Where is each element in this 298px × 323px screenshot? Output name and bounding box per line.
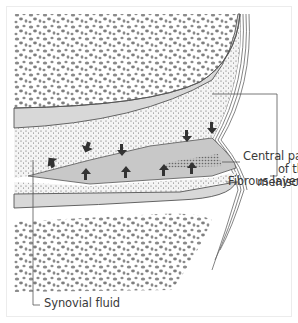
- tibial-bone: [14, 214, 212, 292]
- label-synovial-fluid: Synovial fluid: [44, 297, 120, 310]
- label-fibrous-layer: Fibrous layer: [228, 175, 298, 188]
